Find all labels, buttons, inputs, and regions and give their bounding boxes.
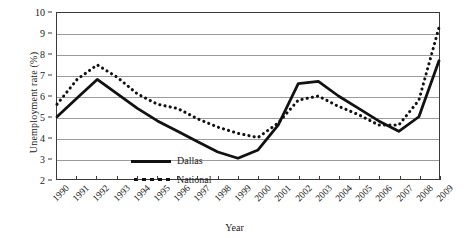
x-tick-mark bbox=[339, 176, 340, 180]
x-tick-label: 1991 bbox=[71, 183, 92, 204]
x-tick-mark bbox=[440, 176, 441, 180]
series-line-dallas bbox=[57, 61, 439, 159]
y-tick-mark bbox=[48, 12, 52, 13]
x-tick-mark bbox=[278, 176, 279, 180]
y-tick-mark bbox=[48, 159, 52, 160]
y-tick-mark bbox=[48, 54, 52, 55]
legend-label-dallas: Dallas bbox=[177, 151, 203, 170]
x-tick-label: 1998 bbox=[212, 183, 233, 204]
x-axis-title: Year bbox=[0, 222, 469, 233]
x-tick-mark bbox=[76, 176, 77, 180]
x-tick-label: 2006 bbox=[374, 183, 395, 204]
x-tick-label: 1992 bbox=[91, 183, 112, 204]
series-lines bbox=[57, 13, 439, 179]
x-tick-mark bbox=[359, 176, 360, 180]
x-tick-label: 2001 bbox=[273, 183, 294, 204]
x-tick-mark bbox=[258, 176, 259, 180]
y-tick-mark bbox=[48, 75, 52, 76]
x-axis-ticks: 1990199119921993199419951996199719981999… bbox=[56, 180, 440, 226]
x-tick-mark bbox=[197, 176, 198, 180]
x-tick-label: 2009 bbox=[435, 183, 456, 204]
x-tick-mark bbox=[177, 176, 178, 180]
x-tick-mark bbox=[157, 176, 158, 180]
legend-item-dallas: Dallas bbox=[131, 151, 211, 170]
y-tick-label: 7 bbox=[40, 70, 45, 81]
y-axis-ticks: 2345678910 bbox=[0, 12, 52, 180]
x-tick-label: 1995 bbox=[152, 183, 173, 204]
x-tick-label: 2000 bbox=[253, 183, 274, 204]
x-tick-mark bbox=[218, 176, 219, 180]
x-tick-label: 2003 bbox=[313, 183, 334, 204]
x-tick-label: 1999 bbox=[232, 183, 253, 204]
y-tick-mark bbox=[48, 33, 52, 34]
x-tick-label: 1990 bbox=[51, 183, 72, 204]
legend-swatch-solid-line bbox=[131, 155, 171, 167]
y-tick-mark bbox=[48, 117, 52, 118]
y-tick-label: 9 bbox=[40, 28, 45, 39]
x-tick-mark bbox=[56, 176, 57, 180]
x-tick-mark bbox=[117, 176, 118, 180]
y-tick-label: 3 bbox=[40, 154, 45, 165]
x-tick-label: 2007 bbox=[394, 183, 415, 204]
x-tick-mark bbox=[238, 176, 239, 180]
y-tick-mark bbox=[48, 138, 52, 139]
x-tick-label: 1994 bbox=[131, 183, 152, 204]
plot-area: Dallas National bbox=[56, 12, 440, 180]
y-tick-label: 5 bbox=[40, 112, 45, 123]
x-tick-label: 2002 bbox=[293, 183, 314, 204]
x-tick-mark bbox=[319, 176, 320, 180]
y-tick-mark bbox=[48, 96, 52, 97]
y-tick-label: 4 bbox=[40, 133, 45, 144]
chart-figure: Unemployment rate (%) 2345678910 Dallas … bbox=[0, 0, 469, 238]
x-tick-mark bbox=[137, 176, 138, 180]
y-tick-label: 2 bbox=[40, 175, 45, 186]
x-tick-label: 1993 bbox=[111, 183, 132, 204]
x-tick-mark bbox=[400, 176, 401, 180]
y-tick-mark bbox=[48, 180, 52, 181]
x-tick-label: 2008 bbox=[414, 183, 435, 204]
x-tick-mark bbox=[96, 176, 97, 180]
y-tick-label: 10 bbox=[35, 7, 45, 18]
y-tick-label: 6 bbox=[40, 91, 45, 102]
x-tick-label: 2004 bbox=[334, 183, 355, 204]
x-tick-label: 2005 bbox=[354, 183, 375, 204]
x-tick-mark bbox=[379, 176, 380, 180]
x-tick-label: 1997 bbox=[192, 183, 213, 204]
x-tick-mark bbox=[299, 176, 300, 180]
y-tick-label: 8 bbox=[40, 49, 45, 60]
x-tick-label: 1996 bbox=[172, 183, 193, 204]
x-tick-mark bbox=[420, 176, 421, 180]
